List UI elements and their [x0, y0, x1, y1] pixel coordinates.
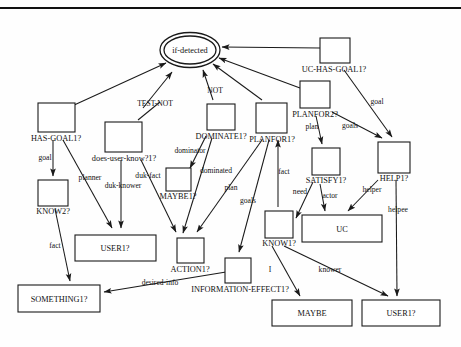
node-if-detected-label: if-detected: [172, 46, 208, 55]
node-information-effect1[interactable]: [225, 258, 251, 283]
node-uc-has-goal1[interactable]: [320, 38, 350, 63]
node-know1[interactable]: [265, 211, 293, 238]
node-does-user-know1-label: does-user-know?1?: [92, 154, 157, 163]
node-has-goal1-label: HAS-GOAL1?: [31, 134, 82, 143]
node-know2[interactable]: [38, 180, 68, 206]
edge-label-actor: actor: [322, 191, 338, 200]
edge-not-to-if-detected: [203, 70, 213, 100]
edge-label-helpee: helpee: [388, 205, 408, 214]
edge-label-test-not: TEST-NOT: [137, 99, 173, 108]
edge-label-not: NOT: [207, 86, 223, 95]
node-planfor2-label: PLANFOR2?: [292, 110, 338, 119]
node-user1-right-label: USER1?: [386, 309, 415, 318]
edge-label-goals-left: goals: [240, 196, 256, 205]
diagram-canvas: if-detected HAS-GOAL1? does-user-know?1?…: [0, 0, 461, 347]
node-satisfy1[interactable]: [312, 148, 340, 175]
edge-label-plan-left: plan: [224, 183, 237, 192]
edge-label-plan-right: plan: [305, 122, 318, 131]
edge-label-need: need: [293, 187, 308, 196]
edge-label-desired-info: desired-info: [142, 278, 179, 287]
node-know2-label: KNOW2?: [36, 207, 70, 216]
node-something1-label: SOMETHING1?: [31, 295, 88, 304]
edge-label-i: I: [269, 265, 272, 274]
node-know1-label: KNOW1?: [262, 239, 296, 248]
edge-label-dominator: dominator: [174, 146, 206, 155]
edge-label-dominated: dominated: [200, 166, 232, 175]
node-has-goal1[interactable]: [38, 103, 75, 132]
edge-label-duk-fact: duk-fact: [135, 171, 161, 180]
node-uc-label: UC: [336, 225, 348, 234]
edge-label-fact-center: fact: [278, 167, 290, 176]
edge-label-goals-right: goals: [342, 121, 358, 130]
node-information-effect1-label: INFORMATION-EFFECT1?: [191, 285, 289, 294]
node-maybe1[interactable]: [166, 168, 191, 191]
edge-label-goal-left: goal: [38, 153, 51, 162]
node-uc-has-goal1-label: UC-HAS-GOAL1?: [302, 65, 367, 74]
node-does-user-know1[interactable]: [105, 122, 142, 152]
edge-label-planner: planner: [79, 173, 102, 182]
node-help1-label: HELP1?: [380, 174, 409, 183]
node-dominate1-label: DOMINATE1?: [195, 132, 246, 141]
node-maybe-label: MAYBE: [297, 309, 326, 318]
node-satisfy1-label: SATISFY1?: [306, 176, 347, 185]
node-action1-label: ACTION1?: [170, 265, 209, 274]
edge-uc-has-goal1-to-if-detected: [222, 47, 320, 48]
edge-planfor2-to-if-detected: [219, 58, 300, 88]
node-user1-left-label: USER1?: [100, 244, 129, 253]
edge-label-duk-knower: duk-knower: [105, 181, 142, 190]
node-action1[interactable]: [177, 238, 204, 263]
network-diagram-svg: if-detected HAS-GOAL1? does-user-know?1?…: [0, 0, 461, 347]
edge-label-fact-left: fact: [49, 241, 61, 250]
node-help1[interactable]: [378, 142, 410, 173]
node-planfor1-label: PLANFOR1?: [249, 135, 295, 144]
edge-label-goal-right: goal: [370, 97, 383, 106]
node-planfor2[interactable]: [300, 81, 330, 108]
node-maybe1-label: MAYBE1?: [159, 192, 196, 201]
node-dominate1[interactable]: [207, 104, 235, 130]
node-planfor1[interactable]: [256, 103, 287, 133]
edge-label-knower: knower: [319, 265, 342, 274]
edge-helpee-help1-to-user1-right: [396, 180, 397, 296]
edge-label-helper: helper: [363, 185, 382, 194]
